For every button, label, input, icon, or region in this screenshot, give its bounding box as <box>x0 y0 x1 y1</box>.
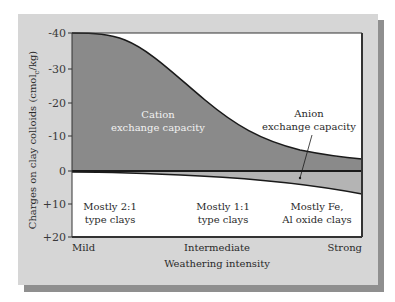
x-axis-title: Weathering intensity <box>164 258 270 269</box>
svg-text:+10: +10 <box>43 198 66 211</box>
svg-text:Cation: Cation <box>141 109 175 120</box>
x-tick-strong: Strong <box>327 242 362 253</box>
svg-text:type clays: type clays <box>85 214 136 225</box>
y-tick-labels: -40 -30 -20 -10 0 +10 +20 <box>43 27 66 244</box>
svg-text:exchange capacity: exchange capacity <box>111 122 205 133</box>
x-tick-intermediate: Intermediate <box>184 242 250 253</box>
svg-text:exchange capacity: exchange capacity <box>262 121 356 132</box>
anion-pointer-dot <box>299 177 301 179</box>
y-axis-title: Charges on clay colloids (cmolc/kg) <box>27 51 41 230</box>
svg-text:Anion: Anion <box>293 108 324 119</box>
svg-text:Mostly 2:1: Mostly 2:1 <box>83 201 137 212</box>
svg-text:-30: -30 <box>48 63 66 76</box>
svg-text:+20: +20 <box>43 231 66 244</box>
svg-text:Mostly Fe,: Mostly Fe, <box>291 201 344 212</box>
y-ticks <box>68 33 72 237</box>
x-tick-mild: Mild <box>72 242 96 253</box>
svg-text:-40: -40 <box>48 27 66 40</box>
svg-text:Al oxide clays: Al oxide clays <box>281 214 352 225</box>
svg-text:Mostly 1:1: Mostly 1:1 <box>196 201 250 212</box>
svg-text:-20: -20 <box>48 97 66 110</box>
chart: -40 -30 -20 -10 0 +10 +20 Charges on cla… <box>0 0 395 302</box>
svg-text:type clays: type clays <box>198 214 249 225</box>
svg-text:0: 0 <box>59 165 66 178</box>
svg-text:-10: -10 <box>48 130 66 143</box>
